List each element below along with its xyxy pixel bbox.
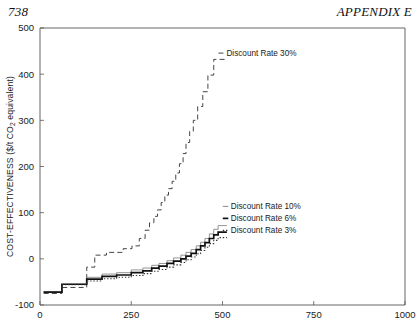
x-tick-label: 250: [123, 309, 139, 320]
y-tick-label: 400: [18, 69, 34, 80]
series-label: Discount Rate 6%: [231, 214, 297, 223]
series-curve-discount-rate-30: [44, 59, 226, 293]
chart-svg: -100010020030040050002505007501000 Disco…: [0, 22, 420, 335]
y-tick-label: 0: [29, 253, 34, 264]
axis-spines: [40, 28, 405, 305]
y-tick-label: 300: [18, 115, 34, 126]
x-tick-label: 0: [37, 309, 42, 320]
x-tick-label: 750: [306, 309, 322, 320]
figure-chart: -100010020030040050002505007501000 Disco…: [0, 22, 420, 335]
y-axis-title-text: COST-EFFECTIVENESS ($/t CO2 equivalent): [5, 76, 16, 257]
series-curves: [44, 59, 227, 293]
y-axis-title: COST-EFFECTIVENESS ($/t CO2 equivalent): [5, 76, 16, 257]
series-label: Discount Rate 30%: [226, 49, 296, 58]
series-curve-discount-rate-6: [44, 232, 227, 292]
page-number: 738: [8, 4, 28, 20]
series-labels: Discount Rate 30%Discount Rate 10%Discou…: [218, 49, 300, 235]
y-tick-label: -100: [15, 299, 34, 310]
y-tick-label: 500: [18, 22, 34, 33]
series-label: Discount Rate 3%: [231, 226, 297, 235]
page: 738 APPENDIX E -100010020030040050002505…: [0, 0, 420, 335]
series-label: Discount Rate 10%: [231, 202, 301, 211]
running-head: APPENDIX E: [337, 4, 412, 20]
x-tick-label: 1000: [394, 309, 415, 320]
y-tick-label: 200: [18, 161, 34, 172]
axes: -100010020030040050002505007501000: [15, 22, 416, 320]
y-tick-label: 100: [18, 207, 34, 218]
x-tick-label: 500: [215, 309, 231, 320]
series-curve-discount-rate-10: [44, 226, 227, 292]
